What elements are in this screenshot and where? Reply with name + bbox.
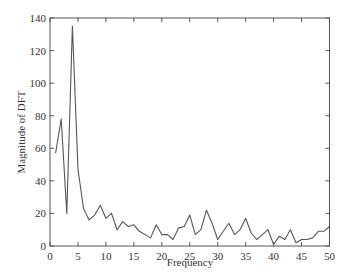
x-tick-label: 50 xyxy=(324,250,336,262)
y-tick-label: 40 xyxy=(35,175,47,187)
y-tick-label: 0 xyxy=(41,240,47,252)
y-tick-label: 20 xyxy=(35,207,47,219)
x-tick-label: 35 xyxy=(240,250,252,262)
y-tick-label: 140 xyxy=(30,12,47,24)
y-tick-labels: 020406080100120140 xyxy=(30,12,47,252)
x-tick-label: 30 xyxy=(212,250,224,262)
x-tick-label: 0 xyxy=(47,250,53,262)
x-tick-label: 15 xyxy=(128,250,140,262)
y-tick-label: 80 xyxy=(35,110,47,122)
dft-magnitude-chart: 05101520253035404550 020406080100120140 … xyxy=(0,0,350,279)
x-axis-label: Frequency xyxy=(167,256,214,268)
x-tick-label: 40 xyxy=(268,250,280,262)
y-axis-label: Magnitude of DFT xyxy=(15,90,27,173)
plot-area xyxy=(50,18,330,246)
x-tick-label: 10 xyxy=(100,250,112,262)
x-tick-label: 5 xyxy=(75,250,81,262)
y-tick-label: 60 xyxy=(35,142,47,154)
y-tick-label: 100 xyxy=(30,77,47,89)
x-tick-label: 45 xyxy=(296,250,308,262)
y-tick-label: 120 xyxy=(30,45,47,57)
